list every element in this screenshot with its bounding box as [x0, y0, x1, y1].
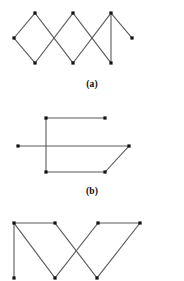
- figure-a: [0, 0, 184, 78]
- figure-b-caption: (b): [0, 186, 184, 196]
- graph-vertex: [109, 61, 112, 64]
- figure-c-edges: [14, 223, 140, 278]
- figure-b-edges: [18, 118, 129, 172]
- graph-vertex: [16, 144, 19, 147]
- figure-sheet: (a) (b): [0, 0, 184, 281]
- graph-vertex: [130, 36, 133, 39]
- graph-vertex: [44, 170, 47, 173]
- graph-vertex: [44, 116, 47, 119]
- graph-vertex: [33, 61, 36, 64]
- graph-vertex: [109, 11, 112, 14]
- graph-vertex: [12, 36, 15, 39]
- figure-a-canvas: [0, 0, 184, 78]
- graph-edge: [111, 13, 132, 38]
- graph-vertex: [95, 276, 98, 279]
- graph-edge: [97, 223, 140, 278]
- graph-edge: [14, 13, 35, 38]
- graph-vertex: [53, 276, 56, 279]
- graph-vertex: [71, 61, 74, 64]
- figure-b-canvas: [0, 105, 184, 185]
- graph-vertex: [12, 221, 15, 224]
- figure-c: [0, 212, 184, 281]
- graph-edge: [105, 146, 129, 172]
- graph-vertex: [53, 221, 56, 224]
- figure-a-vertices: [12, 11, 133, 64]
- graph-edge: [14, 223, 55, 278]
- figure-c-canvas: [0, 212, 184, 281]
- graph-vertex: [33, 11, 36, 14]
- figure-b: [0, 105, 184, 185]
- graph-vertex: [127, 144, 130, 147]
- graph-vertex: [138, 221, 141, 224]
- graph-vertex: [103, 170, 106, 173]
- graph-vertex: [96, 221, 99, 224]
- graph-vertex: [71, 11, 74, 14]
- graph-vertex: [12, 276, 15, 279]
- figure-a-caption: (a): [0, 79, 184, 89]
- figure-b-vertices: [16, 116, 130, 173]
- figure-a-edges: [14, 13, 132, 63]
- graph-vertex: [103, 116, 106, 119]
- graph-edge: [14, 38, 35, 63]
